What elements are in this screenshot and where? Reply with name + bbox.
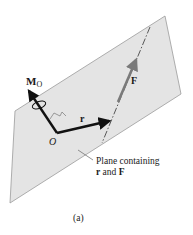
plane-label-line2: r and F [96, 167, 125, 177]
moment-label: MO [26, 75, 42, 89]
origin-label: O [49, 136, 56, 147]
plane-label-line1: Plane containing [96, 156, 160, 166]
moment-diagram: MO O r F Plane containing r and F (a) [0, 0, 193, 235]
r-label: r [80, 113, 85, 124]
figure-caption: (a) [73, 213, 84, 224]
f-label: F [131, 75, 137, 86]
